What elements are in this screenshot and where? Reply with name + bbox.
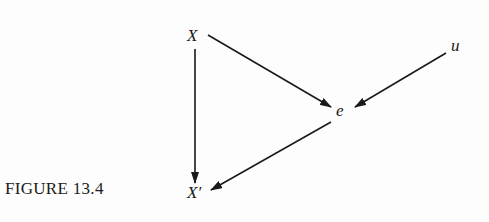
edge-x-to-e <box>208 35 331 107</box>
figure-caption: FIGURE 13.4 <box>5 179 104 199</box>
node-x-prime: X′ <box>187 184 201 201</box>
edge-e-to-xprime <box>211 122 331 190</box>
diagram-canvas: X u e X′ FIGURE 13.4 <box>0 0 489 222</box>
node-x: X <box>187 27 197 44</box>
node-u: u <box>451 37 460 54</box>
node-e: e <box>336 102 344 119</box>
edge-u-to-e <box>355 53 446 107</box>
